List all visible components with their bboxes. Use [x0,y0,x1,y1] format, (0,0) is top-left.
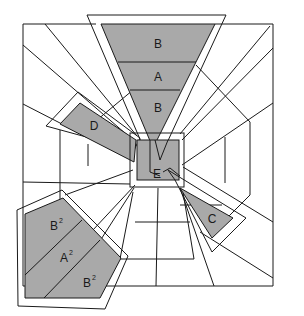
svg-text:B: B [50,219,58,233]
label-e: E [153,167,161,181]
lower-left-shape: B 2 A 2 B 2 [17,190,128,309]
label-top-b1: B [154,37,162,51]
svg-text:2: 2 [92,274,96,281]
c-shape: C [168,170,246,252]
label-c: C [208,212,217,226]
label-d: D [90,119,99,133]
perspective-diagram: B A B D E C B 2 A 2 [0,0,304,316]
svg-text:2: 2 [59,217,63,224]
diagram-canvas: B A B D E C B 2 A 2 [0,0,304,316]
label-top-b2: B [154,101,162,115]
label-top-a: A [154,70,162,84]
svg-text:A: A [60,251,68,265]
svg-text:2: 2 [69,249,73,256]
center-square: E [130,133,184,187]
svg-text:B: B [83,276,91,290]
